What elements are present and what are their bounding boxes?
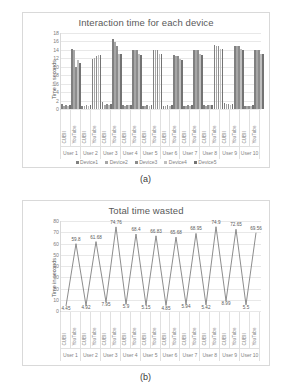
subcategory-label: YouTube [212,328,217,346]
bar-group [81,33,91,109]
subcategory-label: YouTube [113,328,118,346]
chart-b-title: Total time wasted [23,205,269,216]
data-point-label: 4.85 [162,307,171,312]
subcategory-cell: CUBII [161,312,171,349]
subcategory-label: YouTube [252,328,257,346]
bar-group [71,33,81,109]
data-point-label: 66.83 [150,230,162,235]
subcategory-label: YouTube [173,126,178,144]
group-label: User 4 [121,147,141,159]
y-axis-tick: 30 [53,276,59,281]
subcategory-cell: YouTube [151,312,161,349]
group-label: User 10 [240,349,260,361]
subcategory-cell: YouTube [170,312,180,349]
group-label: User 3 [101,147,121,159]
data-point-label: 4.45 [62,307,71,312]
data-point-label: 4.92 [82,306,91,311]
y-axis-tick: 70 [53,231,59,236]
bar-group [234,33,244,109]
y-axis-tick: 16 [53,40,59,45]
subcategory-label: YouTube [173,328,178,346]
group-label: User 10 [240,147,260,159]
bar-group [132,33,142,109]
y-axis-tick: 40 [53,264,59,269]
bar-group [173,33,183,109]
bar-group [122,33,132,109]
group-label: User 9 [220,349,240,361]
subcategory-cell: CUBII [200,312,210,349]
group-label: User 7 [180,349,200,361]
subcategory-label: CUBII [222,334,227,346]
y-axis-tick: 0 [56,107,59,112]
data-point-label: 5.9 [123,305,129,310]
legend-item: Device3 [135,159,158,165]
subcategory-cell: CUBII [101,312,111,349]
subcategory-label: YouTube [232,126,237,144]
subcategory-cell: YouTube [230,110,240,147]
figure-b: Total time wasted Time in seconds 010203… [0,196,291,392]
data-point-label: 69.56 [250,227,262,232]
subcategory-cell: YouTube [170,110,180,147]
subcategory-label: YouTube [133,126,138,144]
subcategory-label: CUBII [242,334,247,346]
bar-group [193,33,203,109]
subcategory-cell: YouTube [91,110,101,147]
group-label: User 1 [60,349,81,361]
subcategory-label: CUBII [103,334,108,346]
bar-group [244,33,254,109]
subcategory-label: CUBII [143,132,148,144]
y-axis-tick: 8 [56,74,59,79]
y-axis-tick: 4 [56,91,59,96]
chart-a-group-row: User 1User 2User 3User 4User 5User 6User… [60,147,260,159]
chart-a-title: Interaction time for each device [23,17,269,28]
y-axis-tick: 0 [56,309,59,314]
figure-a: Interaction time for each device Time in… [0,6,291,192]
subcategory-cell: YouTube [210,110,220,147]
bar-group [224,33,234,109]
subcategory-label: YouTube [153,126,158,144]
subcategory-cell: YouTube [111,312,121,349]
subcategory-cell: CUBII [101,110,111,147]
legend-label: Device5 [198,159,216,165]
subcategory-cell: YouTube [190,110,200,147]
bar-group [142,33,152,109]
y-axis-tick: 10 [53,298,59,303]
chart-a-legend: Device1Device2Device3Device4Device5 [23,159,269,165]
legend-item: Device2 [105,159,128,165]
group-label: User 4 [121,349,141,361]
subcategory-cell: YouTube [91,312,101,349]
legend-item: Device1 [76,159,99,165]
subcategory-cell: YouTube [250,312,260,349]
bar-group [213,33,223,109]
chart-b-plot-area: 01020304050607080 4.4559.84.9261.687.957… [60,221,261,312]
y-axis-tick: 18 [53,31,59,36]
subcategory-label: YouTube [212,126,217,144]
subcategory-cell: YouTube [210,312,220,349]
subcategory-label: CUBII [203,334,208,346]
subcategory-label: YouTube [93,328,98,346]
subcategory-label: CUBII [183,132,188,144]
data-point-label: 68.95 [190,227,202,232]
subcategory-label: YouTube [93,126,98,144]
subcategory-cell: CUBII [180,110,190,147]
subcategory-cell: CUBII [220,110,230,147]
figure-page: Interaction time for each device Time in… [0,0,291,392]
subcategory-label: CUBII [83,132,88,144]
subcategory-cell: CUBII [240,312,250,349]
bar-group [91,33,101,109]
group-label: User 1 [60,147,81,159]
figure-b-caption: (b) [0,372,291,382]
legend-swatch [194,161,197,164]
y-axis-tick: 6 [56,82,59,87]
data-point-label: 74.9 [212,221,221,226]
legend-swatch [76,161,79,164]
data-point-label: 68.4 [132,228,141,233]
data-point-label: 5.5 [243,306,249,311]
subcategory-label: YouTube [193,126,198,144]
line-chart-container: Total time wasted Time in seconds 010203… [22,200,270,366]
subcategory-cell: CUBII [60,110,71,147]
subcategory-cell: CUBII [121,312,131,349]
y-axis-tick: 60 [53,242,59,247]
y-axis-tick: 80 [53,219,59,224]
subcategory-label: YouTube [232,328,237,346]
